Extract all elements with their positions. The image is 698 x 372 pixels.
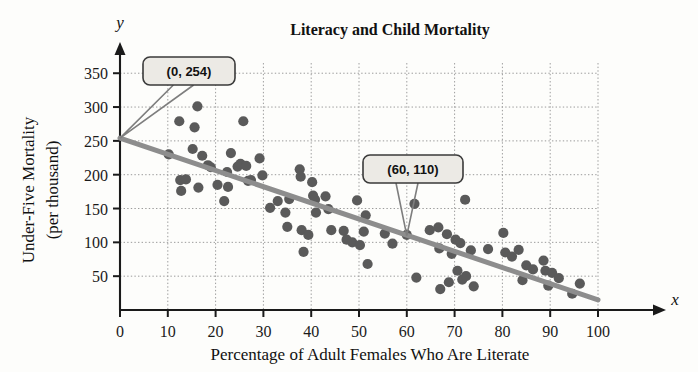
- data-point: [280, 207, 290, 217]
- x-tick-label: 40: [303, 323, 319, 340]
- data-point: [554, 273, 564, 283]
- data-point: [174, 116, 184, 126]
- data-point: [528, 264, 538, 274]
- data-point: [188, 144, 198, 154]
- data-point: [265, 203, 275, 213]
- data-point: [303, 230, 313, 240]
- chart-title: Literacy and Child Mortality: [290, 21, 490, 39]
- y-tick-label: 350: [84, 65, 108, 82]
- data-point: [363, 259, 373, 269]
- data-point: [339, 226, 349, 236]
- data-point: [298, 247, 308, 257]
- x-tick-label: 80: [494, 323, 510, 340]
- data-point: [192, 101, 202, 111]
- data-point: [238, 116, 248, 126]
- x-tick-label: 70: [447, 323, 463, 340]
- y-axis-label-line1: Under-Five Mortality: [19, 116, 38, 263]
- data-point: [514, 245, 524, 255]
- data-point: [575, 279, 585, 289]
- data-point: [282, 222, 292, 232]
- data-point: [273, 196, 283, 206]
- data-point: [461, 271, 471, 281]
- data-point: [307, 177, 317, 187]
- data-point: [197, 151, 207, 161]
- x-tick-label: 0: [116, 323, 124, 340]
- data-point: [452, 266, 462, 276]
- x-axis-label: Percentage of Adult Females Who Are Lite…: [211, 345, 530, 364]
- data-point: [241, 161, 251, 171]
- data-point: [455, 238, 465, 248]
- scatter-chart: 5010015020025030035001020304050607080901…: [0, 0, 698, 372]
- x-tick-label: 90: [542, 323, 558, 340]
- data-point: [538, 256, 548, 266]
- data-point: [257, 170, 267, 180]
- data-point: [483, 244, 493, 254]
- data-point: [219, 196, 229, 206]
- y-tick-label: 150: [84, 201, 108, 218]
- data-point: [460, 195, 470, 205]
- x-tick-label: 50: [351, 323, 367, 340]
- x-tick-label: 60: [399, 323, 415, 340]
- data-point: [320, 191, 330, 201]
- x-tick-label: 10: [160, 323, 176, 340]
- data-point: [435, 284, 445, 294]
- data-point: [223, 182, 233, 192]
- y-tick-label: 250: [84, 133, 108, 150]
- x-tick-label: 100: [586, 323, 610, 340]
- data-point: [469, 281, 479, 291]
- y-axis-name: y: [114, 13, 124, 32]
- data-point: [189, 122, 199, 132]
- data-point: [254, 153, 264, 163]
- data-point: [387, 239, 397, 249]
- data-point: [442, 229, 452, 239]
- data-point: [359, 226, 369, 236]
- data-point: [498, 228, 508, 238]
- data-point: [444, 277, 454, 287]
- data-point: [311, 207, 321, 217]
- x-tick-label: 30: [255, 323, 271, 340]
- data-point: [212, 180, 222, 190]
- data-point: [355, 240, 365, 250]
- data-point: [193, 182, 203, 192]
- data-point: [296, 172, 306, 182]
- chart-page: 5010015020025030035001020304050607080901…: [0, 0, 698, 372]
- x-tick-label: 20: [208, 323, 224, 340]
- data-point: [176, 186, 186, 196]
- annotation-label: (0, 254): [167, 64, 212, 79]
- data-point: [352, 195, 362, 205]
- data-point: [326, 225, 336, 235]
- data-point: [425, 225, 435, 235]
- y-axis-label-line2: (per thousand): [43, 141, 62, 240]
- y-tick-label: 50: [92, 268, 108, 285]
- data-point: [226, 148, 236, 158]
- data-point: [181, 174, 191, 184]
- y-tick-label: 100: [84, 234, 108, 251]
- data-point: [433, 222, 443, 232]
- data-point: [411, 272, 421, 282]
- annotation-label: (60, 110): [387, 162, 438, 177]
- y-tick-label: 300: [84, 99, 108, 116]
- y-tick-label: 200: [84, 167, 108, 184]
- data-points: [164, 101, 585, 299]
- x-axis-name: x: [670, 290, 679, 309]
